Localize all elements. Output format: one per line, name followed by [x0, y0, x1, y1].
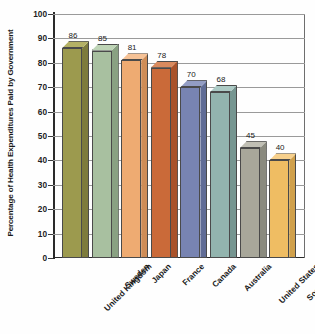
bar-front-face [180, 87, 200, 258]
bar-front-face [151, 68, 171, 258]
bar-front-face [269, 160, 289, 258]
bar[interactable]: 70 [180, 87, 200, 258]
x-axis-label: Sweden [123, 262, 151, 290]
y-tick-label: 100 [33, 9, 47, 19]
y-tick-mark [48, 258, 53, 259]
bar-front-face [92, 51, 112, 258]
y-tick-label: 20 [38, 204, 47, 214]
bar-value-label: 86 [68, 31, 77, 40]
bar-chart: Percentage of Health Expenditures Paid b… [0, 0, 315, 334]
bar-front-face [240, 148, 260, 258]
bar-front-face [62, 48, 82, 258]
y-tick-label: 0 [42, 253, 47, 263]
bar-value-label: 81 [128, 43, 137, 52]
y-tick-label: 90 [38, 33, 47, 43]
bar-side-face [171, 61, 178, 258]
y-tick-label: 60 [38, 107, 47, 117]
bar[interactable]: 40 [269, 160, 289, 258]
y-tick-mark [48, 136, 53, 137]
y-tick-mark [48, 38, 53, 39]
bar-front-face [210, 92, 230, 258]
bar[interactable]: 78 [151, 68, 171, 258]
y-tick-label: 40 [38, 155, 47, 165]
bar-side-face [260, 141, 267, 258]
bar[interactable]: 86 [62, 48, 82, 258]
bar-side-face [289, 153, 296, 258]
y-tick-mark [48, 234, 53, 235]
y-tick-mark [48, 63, 53, 64]
y-tick-label: 10 [38, 229, 47, 239]
y-tick-mark [48, 185, 53, 186]
y-axis-title: Percentage of Health Expenditures Paid b… [4, 4, 18, 262]
x-axis-label: Japan [150, 262, 173, 285]
y-tick-label: 30 [38, 180, 47, 190]
bar-value-label: 68 [216, 75, 225, 84]
bar-side-face [112, 44, 119, 258]
bar-side-face [230, 85, 237, 258]
bar-side-face [200, 80, 207, 258]
bar-value-label: 70 [187, 70, 196, 79]
x-axis-label: Canada [211, 262, 238, 289]
plot-area: 1009080706050403020100 8685817870684540 [53, 14, 305, 258]
y-tick-mark [48, 160, 53, 161]
y-tick-label: 70 [38, 82, 47, 92]
y-tick-mark [48, 112, 53, 113]
x-axis-label: Australia [242, 262, 273, 293]
bar-side-face [82, 41, 89, 258]
y-tick-mark [48, 209, 53, 210]
bar-value-label: 85 [98, 34, 107, 43]
bar-front-face [121, 60, 141, 258]
bar[interactable]: 68 [210, 92, 230, 258]
bar[interactable]: 85 [92, 51, 112, 258]
y-tick-label: 50 [38, 131, 47, 141]
gridline [53, 14, 305, 15]
bar-value-label: 78 [157, 51, 166, 60]
gridline [53, 38, 305, 39]
bar-value-label: 40 [276, 143, 285, 152]
bar[interactable]: 45 [240, 148, 260, 258]
y-tick-label: 80 [38, 58, 47, 68]
y-tick-mark [48, 14, 53, 15]
bar-value-label: 45 [246, 131, 255, 140]
y-tick-mark [48, 87, 53, 88]
x-axis-label: France [181, 262, 206, 287]
bar-side-face [141, 53, 148, 258]
bar[interactable]: 81 [121, 60, 141, 258]
